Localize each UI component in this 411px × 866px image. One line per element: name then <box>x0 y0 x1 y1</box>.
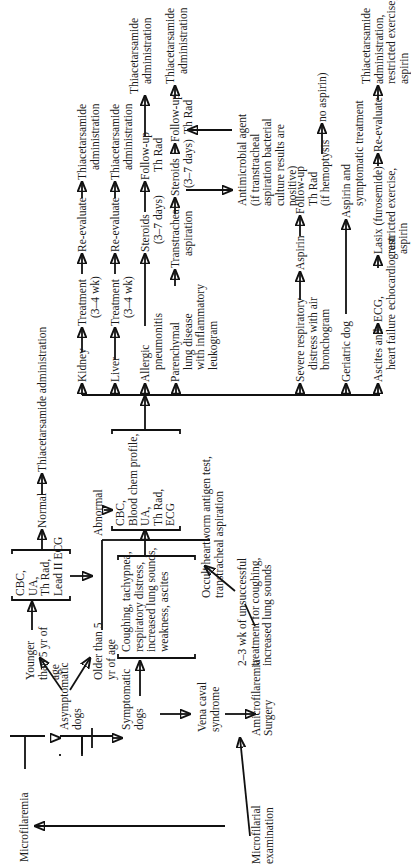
node-microfilaremia: Microfilaremia <box>18 792 31 862</box>
line: (3–7 days) <box>152 195 165 252</box>
line: aspiration bacterial <box>261 114 274 206</box>
line: Follow-up <box>169 94 182 142</box>
node-surgery: Surgery <box>262 700 275 736</box>
line: respiratory distress, <box>133 548 146 652</box>
line: aspirin <box>397 166 410 254</box>
line: Severe respiratory <box>294 297 307 382</box>
line: Treatment <box>76 276 89 326</box>
line: ECG <box>164 434 177 526</box>
line: Follow-up <box>294 140 307 214</box>
line: heart failure <box>385 314 398 382</box>
line: weakness, ascites <box>158 548 171 652</box>
line: culture results are <box>274 114 287 206</box>
line: Th Rad, <box>39 537 52 596</box>
line: Transtracheal <box>169 206 182 268</box>
line: aspirin <box>398 0 411 84</box>
line: Occult heartworm antigen test, <box>200 456 213 598</box>
line: increased lung sounds <box>261 558 274 666</box>
line: lung disease <box>182 284 195 382</box>
line: Thiacetarsamide <box>128 18 141 94</box>
line: Follow-up <box>139 132 152 180</box>
line: Coughing, tachypnea, <box>120 548 133 652</box>
line: (3–4 wk) <box>89 276 102 326</box>
line: restricted exercise, <box>385 166 398 254</box>
line: administration <box>122 104 135 180</box>
node-kidney: Kidney <box>76 348 89 382</box>
node-severe-respiratory: Severe respiratory distress with air bro… <box>294 297 332 382</box>
line: Treatment <box>109 276 122 326</box>
line: (if hemoptysis <box>319 140 332 214</box>
line: Blood chem profile, <box>127 434 140 526</box>
line: increased lung sounds, <box>145 548 158 652</box>
line: aspiration <box>182 206 195 268</box>
node-ascites-end: Thiacetarsamide administration, restrict… <box>360 0 410 84</box>
line: (if transtracheal <box>249 114 262 206</box>
line: Thiacetarsamide <box>109 104 122 180</box>
line: distress with air <box>307 297 320 382</box>
node-kidney-end: Thiacetarsamide administration <box>76 104 101 180</box>
line: Steroids <box>139 195 152 252</box>
line: administration, <box>373 0 386 84</box>
node-aspirin-symptomatic: Aspirin and symptomatic treatment <box>340 100 365 218</box>
node-microfilarial-examination: Microfilarial examination <box>250 794 275 864</box>
node-no-aspirin: no aspirin) <box>316 72 329 122</box>
line: Lead II ECG <box>52 537 65 596</box>
node-box-full: CBC, Blood chem profile, UA, Th Rad, ECG <box>114 434 177 526</box>
node-parenchymal-end: Thiacetarsamide administration <box>164 8 189 84</box>
node-ascites-heart-failure: Ascites and heart failure <box>372 314 397 382</box>
line: (3–7 days) <box>182 139 195 196</box>
line: transtracheal aspiration <box>213 456 226 598</box>
line: pneumonitis <box>152 313 165 382</box>
node-symptomatic-dogs: Symptomatic dogs <box>120 670 145 730</box>
line: treatment for coughing, <box>249 558 262 666</box>
node-parenchymal-steroids: Steroids (3–7 days) <box>169 139 194 196</box>
line: Aspirin and <box>340 100 353 218</box>
node-geriatric-dog: Geriatric dog <box>340 321 353 382</box>
node-parenchymal: Parenchymal lung disease with inflammato… <box>169 284 219 382</box>
node-thiacetarsamide-admin: Thiacetarsamide administration <box>36 327 49 472</box>
node-allergic-pneumonitis: Allergic pneumonitis <box>139 313 164 382</box>
line: administration <box>141 18 154 94</box>
line: Th Rad <box>152 132 165 180</box>
node-transtracheal-aspiration: Transtracheal aspiration <box>169 206 194 268</box>
line: CBC, <box>114 434 127 526</box>
line: Ascites and <box>372 314 385 382</box>
line: UA, <box>139 434 152 526</box>
node-aspirin: Aspirin <box>294 236 307 271</box>
line: Thiacetarsamide <box>76 104 89 180</box>
node-allergic-end: Thiacetarsamide administration <box>128 18 153 94</box>
line: Thiacetarsamide <box>360 0 373 84</box>
line: Allergic <box>139 313 152 382</box>
node-parenchymal-followup: Follow-up Th Rad <box>169 94 194 142</box>
line: leukogram <box>207 284 220 382</box>
node-vena-caval-syndrome: Vena caval syndrome <box>196 672 221 732</box>
line: CBC, <box>14 537 27 596</box>
node-unsuccessful-treatment: 2–3 wk of unsuccessful treatment for cou… <box>236 558 274 666</box>
line: Th Rad <box>307 140 320 214</box>
flowchart-canvas: Microfilarial examination Microfilaremia… <box>0 0 411 866</box>
node-asymptomatic-dogs: Asymptomatic dogs <box>58 670 83 730</box>
node-liver: Liver <box>109 357 122 382</box>
node-allergic-steroids: Steroids (3–7 days) <box>139 195 164 252</box>
line: 2–3 wk of unsuccessful <box>236 558 249 666</box>
node-younger-than-5: Younger than 5 yr of age <box>24 620 62 680</box>
node-box-basic: CBC, UA, Th Rad, Lead II ECG <box>14 537 64 596</box>
node-kidney-reevaluate: Re-evaluate <box>76 197 89 252</box>
node-amicrofilaremia: Amicrofilaremia <box>250 659 263 736</box>
line: (3–4 wk) <box>122 276 135 326</box>
node-ascites-reevaluate: Re-evaluate <box>372 97 385 152</box>
line: Steroids <box>169 139 182 196</box>
node-liver-end: Thiacetarsamide administration <box>109 104 134 180</box>
line: UA, <box>27 537 40 596</box>
line: Thiacetarsamide <box>164 8 177 84</box>
node-abnormal: Abnormal <box>92 489 105 536</box>
node-allergic-followup: Follow-up Th Rad <box>139 132 164 180</box>
line: administration <box>89 104 102 180</box>
node-older-than-5: Older than 5 yr of age <box>92 620 117 680</box>
line: bronchogram <box>319 297 332 382</box>
node-lasix: Lasix (furosemide) restricted exercise, … <box>372 166 410 254</box>
node-occult-test: Occult heartworm antigen test, transtrac… <box>200 456 225 598</box>
line: administration <box>177 8 190 84</box>
line: symptomatic treatment <box>353 100 366 218</box>
node-severe-followup: Follow-up Th Rad (if hemoptysis <box>294 140 332 214</box>
